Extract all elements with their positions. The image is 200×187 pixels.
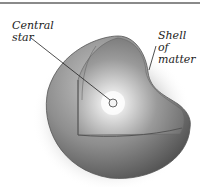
central-star-label: Central star — [12, 20, 54, 44]
central-star-label-line2: star — [12, 32, 54, 44]
shell-label: Shell of matter — [158, 30, 200, 66]
shell-label-line1: Shell of — [158, 30, 200, 54]
shell-label-line2: matter — [158, 54, 200, 66]
central-star — [109, 99, 117, 107]
